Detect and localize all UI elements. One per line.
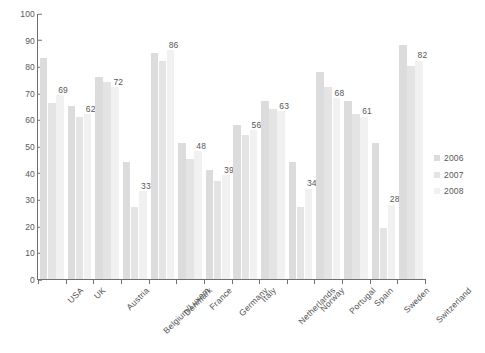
x-axis-tick-mark <box>370 279 371 284</box>
y-axis-tick: 50 <box>25 143 38 152</box>
bar-2007 <box>131 207 139 279</box>
bar-2008: 86 <box>167 50 175 279</box>
y-axis-tick: 80 <box>25 63 38 72</box>
x-axis-ticks <box>38 279 425 284</box>
bar-2006 <box>151 53 159 279</box>
bar-2006 <box>261 101 269 279</box>
bar-2007 <box>214 181 222 279</box>
bar-group: 68 <box>314 14 342 279</box>
bar-2008: 56 <box>250 130 258 279</box>
x-axis-label: USA <box>67 286 86 305</box>
bar-2006 <box>178 143 186 279</box>
x-axis-label: UK <box>93 286 108 301</box>
bar-group: 86 <box>149 14 177 279</box>
legend-swatch-icon <box>434 155 440 161</box>
bar-2007 <box>407 66 415 279</box>
legend-label: 2006 <box>444 154 464 163</box>
bar-group: 62 <box>66 14 94 279</box>
x-axis-tick-mark <box>287 279 288 284</box>
bar-2006 <box>233 125 241 279</box>
y-axis-tick: 100 <box>20 10 38 19</box>
bar-group: 82 <box>397 14 425 279</box>
bar-2006 <box>95 77 103 279</box>
x-axis-label: Switzerland <box>434 286 473 325</box>
bar-2008: 62 <box>84 114 92 279</box>
legend-label: 2007 <box>444 171 464 180</box>
y-axis-tick-label: 0 <box>30 276 38 285</box>
bar-2007 <box>242 135 250 279</box>
x-axis-tick-mark <box>397 279 398 284</box>
bar-2006 <box>68 106 76 279</box>
bar-group: 34 <box>287 14 315 279</box>
x-axis-tick-mark <box>66 279 67 284</box>
bar-group: 33 <box>121 14 149 279</box>
y-axis-tick-label: 60 <box>25 116 38 125</box>
bar-2007 <box>324 87 332 279</box>
bar-group: 72 <box>93 14 121 279</box>
y-axis-tick-label: 100 <box>20 10 38 19</box>
bar-2007 <box>103 82 111 279</box>
y-axis-tick: 0 <box>30 276 38 285</box>
legend-item[interactable]: 2008 <box>434 187 464 196</box>
bar-2007 <box>186 159 194 279</box>
x-axis-tick-mark <box>259 279 260 284</box>
y-axis-tick: 60 <box>25 116 38 125</box>
bar-2008: 82 <box>415 61 423 279</box>
y-axis-tick: 30 <box>25 196 38 205</box>
x-axis-tick-mark <box>38 279 39 284</box>
x-axis-tick-mark <box>232 279 233 284</box>
bar-group: 56 <box>231 14 259 279</box>
bar-group: 39 <box>204 14 232 279</box>
y-axis-tick-label: 70 <box>25 90 38 99</box>
bar-2007 <box>269 109 277 279</box>
legend-item[interactable]: 2006 <box>434 154 464 163</box>
bar-chart: 0102030405060708090100 69627233864839566… <box>0 0 485 353</box>
bar-2008: 33 <box>139 191 147 279</box>
x-axis-label: Norway <box>319 286 346 313</box>
plot-area: 0102030405060708090100 69627233864839566… <box>37 14 425 280</box>
y-axis-tick: 10 <box>25 249 38 258</box>
y-axis-tick-label: 20 <box>25 223 38 232</box>
bar-2008: 69 <box>56 95 64 279</box>
y-axis-tick: 70 <box>25 90 38 99</box>
legend-swatch-icon <box>434 188 440 194</box>
bar-2008: 61 <box>360 117 368 279</box>
x-axis-tick-mark <box>204 279 205 284</box>
x-axis-tick-mark <box>121 279 122 284</box>
x-axis-tick-mark <box>314 279 315 284</box>
legend-label: 2008 <box>444 187 464 196</box>
x-axis-tick-mark <box>342 279 343 284</box>
legend-swatch-icon <box>434 172 440 178</box>
x-axis-label: Austria <box>125 286 151 312</box>
y-axis-tick-label: 40 <box>25 169 38 178</box>
bar-2006 <box>289 162 297 279</box>
y-axis-tick-label: 50 <box>25 143 38 152</box>
x-axis-tick-mark <box>93 279 94 284</box>
y-axis-tick: 20 <box>25 223 38 232</box>
bar-2006 <box>344 101 352 279</box>
bar-value-label: 82 <box>417 51 427 60</box>
bar-2007 <box>352 114 360 279</box>
x-axis-tick-mark <box>176 279 177 284</box>
bars-layer: 6962723386483956633468612882 <box>38 14 425 279</box>
bar-group: 48 <box>176 14 204 279</box>
y-axis-tick-label: 10 <box>25 249 38 258</box>
bar-2006 <box>123 162 131 279</box>
bar-2007 <box>380 228 388 279</box>
y-axis-tick: 40 <box>25 169 38 178</box>
legend-item[interactable]: 2007 <box>434 171 464 180</box>
bar-2008: 63 <box>277 111 285 279</box>
bar-2006 <box>372 143 380 279</box>
x-axis-label: Sweden <box>403 286 432 315</box>
y-axis-tick-label: 30 <box>25 196 38 205</box>
y-axis-tick-label: 90 <box>25 36 38 45</box>
bar-2007 <box>76 117 84 279</box>
chart-legend: 200620072008 <box>434 154 464 196</box>
bar-2008: 28 <box>388 205 396 279</box>
bar-2007 <box>48 103 56 279</box>
bar-group: 69 <box>38 14 66 279</box>
x-axis-tick-mark <box>149 279 150 284</box>
bar-2007 <box>297 207 305 279</box>
bar-2007 <box>159 61 167 279</box>
bar-2008: 68 <box>333 98 341 279</box>
